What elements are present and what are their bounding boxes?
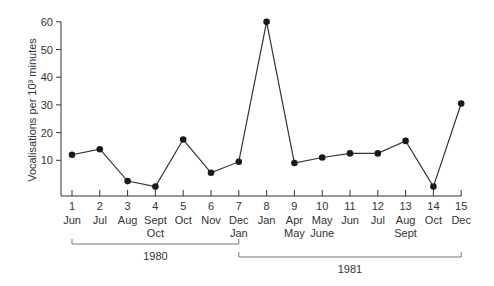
data-point-marker: [263, 19, 270, 26]
year-brackets: 19801981: [72, 239, 461, 275]
x-month-label: Jul: [93, 214, 107, 226]
x-month-label: Jan: [258, 214, 276, 226]
x-tick-label: 14: [427, 200, 439, 212]
x-month-label: Dec: [451, 214, 471, 226]
x-tick-label: 3: [125, 200, 131, 212]
data-point-marker: [375, 150, 382, 157]
x-tick-label: 7: [236, 200, 242, 212]
x-month-label: June: [310, 227, 334, 239]
line-chart: 102030405060 1Jun2Jul3Aug4SeptOct5Oct6No…: [0, 0, 494, 286]
x-tick-label: 12: [372, 200, 384, 212]
x-tick-label: 10: [316, 200, 328, 212]
x-tick-label: 8: [264, 200, 270, 212]
data-point-marker: [236, 158, 243, 165]
data-point-marker: [208, 169, 215, 176]
x-month-label: Jun: [341, 214, 359, 226]
x-month-label: Jul: [371, 214, 385, 226]
x-month-label: Aug: [396, 214, 416, 226]
data-point-marker: [152, 183, 159, 190]
x-month-label: Sept: [394, 227, 417, 239]
data-point-marker: [124, 178, 131, 185]
x-tick-label: 6: [208, 200, 214, 212]
y-tick-label: 50: [41, 44, 53, 56]
year-bracket: [239, 252, 461, 257]
data-point-marker: [458, 100, 465, 107]
x-month-label: Oct: [175, 214, 192, 226]
year-label: 1981: [338, 263, 362, 275]
x-tick-label: 11: [344, 200, 355, 212]
series-line: [72, 22, 461, 187]
data-point-marker: [430, 183, 437, 190]
data-point-marker: [180, 136, 187, 143]
x-tick-label: 15: [455, 200, 467, 212]
x-month-label: Nov: [201, 214, 221, 226]
x-month-label: Jun: [63, 214, 81, 226]
data-point-marker: [97, 146, 104, 153]
x-tick-label: 13: [399, 200, 411, 212]
y-tick-label: 10: [41, 154, 53, 166]
data-point-marker: [319, 154, 326, 161]
x-month-label: Sept: [144, 214, 167, 226]
x-tick-label: 4: [152, 200, 158, 212]
y-axis-label: Vocalisations per 10³ minutes: [26, 38, 38, 182]
x-tick-label: 9: [291, 200, 297, 212]
y-axis: 102030405060: [41, 16, 61, 196]
x-tick-label: 2: [97, 200, 103, 212]
x-month-label: Oct: [425, 214, 442, 226]
x-month-label: Jan: [230, 227, 248, 239]
data-point-marker: [402, 138, 409, 145]
y-tick-label: 60: [41, 16, 53, 28]
year-label: 1980: [143, 250, 167, 262]
x-month-label: Dec: [229, 214, 249, 226]
x-month-label: Apr: [286, 214, 303, 226]
x-month-label: Oct: [147, 227, 164, 239]
x-month-label: May: [312, 214, 333, 226]
data-point-marker: [291, 160, 298, 167]
y-tick-label: 20: [41, 127, 53, 139]
data-point-marker: [69, 151, 76, 158]
x-month-label: May: [284, 227, 305, 239]
x-tick-label: 1: [69, 200, 75, 212]
data-series: [69, 19, 465, 190]
x-month-label: Aug: [118, 214, 138, 226]
x-tick-label: 5: [180, 200, 186, 212]
data-point-marker: [347, 150, 354, 157]
x-axis: 1Jun2Jul3Aug4SeptOct5Oct6Nov7DecJan8Jan9…: [61, 190, 471, 239]
y-tick-label: 40: [41, 71, 53, 83]
year-bracket: [72, 239, 239, 244]
y-tick-label: 30: [41, 99, 53, 111]
